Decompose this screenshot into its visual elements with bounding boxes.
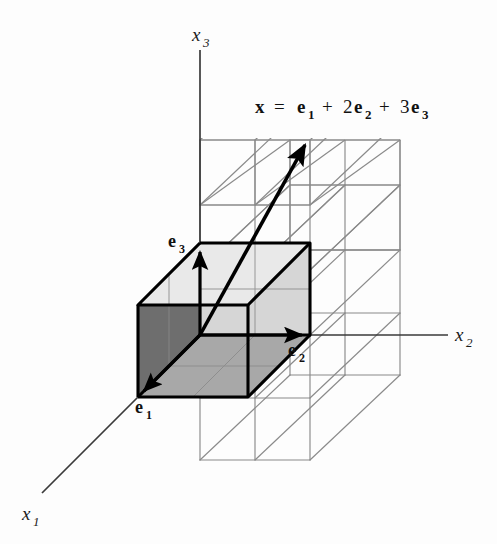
unit-cube-faces: [138, 243, 310, 397]
vector-diagram-figure: x = e 1 + 2 e 2 + 3 e 3 x 3 x 2 x 1: [0, 0, 497, 544]
basis-label-e3-base: e: [168, 231, 176, 251]
axis-label-x2-sub: 2: [466, 335, 473, 350]
basis-label-e3-sub: 3: [179, 242, 185, 256]
equation-term2-base: e: [354, 96, 362, 117]
axis-label-x1-sub: 1: [33, 514, 40, 529]
basis-label-e3: e 3: [168, 231, 185, 256]
basis-label-e1-sub: 1: [146, 408, 152, 422]
axis-label-x3-base: x: [191, 24, 201, 45]
basis-label-e2-base: e: [288, 340, 296, 360]
axis-label-x1-base: x: [21, 503, 31, 524]
equation-term1-base: e: [297, 96, 305, 117]
equation-equals: =: [274, 96, 285, 117]
equation-vector-x: x: [255, 96, 265, 117]
equation-plus-2: +: [379, 96, 390, 117]
equation-term1-sub: 1: [308, 107, 315, 122]
figure-canvas: x = e 1 + 2 e 2 + 3 e 3 x 3 x 2 x 1: [0, 0, 497, 544]
equation-plus-1: +: [322, 96, 333, 117]
basis-label-e1: e 1: [135, 397, 152, 422]
basis-label-e1-base: e: [135, 397, 143, 417]
axis-label-x3-sub: 3: [202, 35, 210, 50]
equation-term3-coeff: 3: [400, 96, 410, 117]
equation-term3-base: e: [411, 96, 419, 117]
basis-label-e2-sub: 2: [299, 351, 305, 365]
axis-label-x2-base: x: [454, 324, 464, 345]
equation-term2-coeff: 2: [343, 96, 353, 117]
equation-term3-sub: 3: [422, 107, 429, 122]
equation-term2-sub: 2: [365, 107, 372, 122]
axis-label-x2: x 2: [454, 324, 473, 350]
axis-label-x1: x 1: [21, 503, 40, 529]
